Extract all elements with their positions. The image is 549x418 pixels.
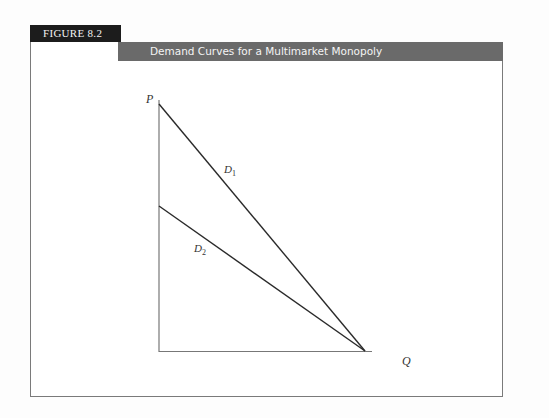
demand-chart: P Q D1 D2	[0, 0, 549, 418]
x-axis-label: Q	[402, 354, 411, 368]
d2-label: D2	[193, 242, 206, 257]
d1-label: D1	[223, 163, 236, 178]
y-axis-label: P	[145, 92, 154, 106]
